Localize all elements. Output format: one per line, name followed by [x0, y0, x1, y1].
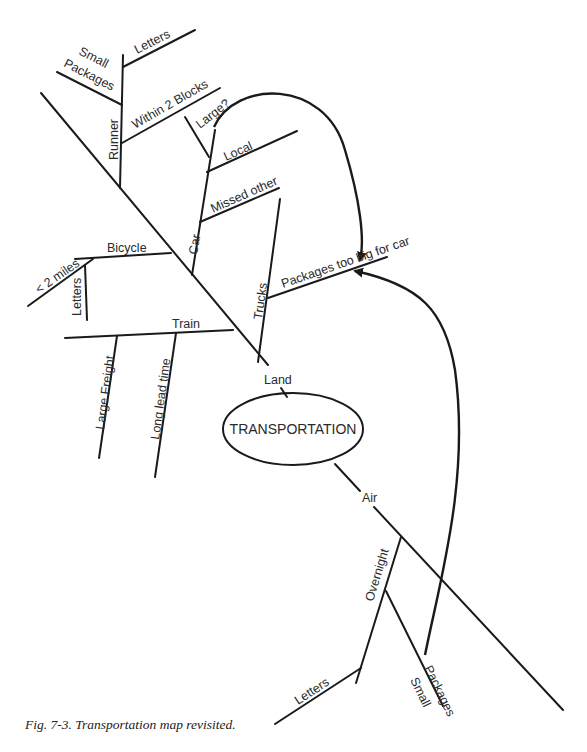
- bicycle-label: Bicycle: [107, 241, 147, 255]
- air-label: Air: [362, 491, 377, 505]
- land-trunk-line: [41, 93, 268, 365]
- large-to-trucks-arrow: [214, 94, 362, 260]
- bicycle-letters-line: [85, 265, 87, 320]
- transportation-label: TRANSPORTATION: [230, 421, 357, 437]
- transportation-mind-map: TRANSPORTATION Land Air Runner Letters S…: [0, 0, 587, 752]
- train-long-lead-time-label: Long lead time: [148, 357, 173, 440]
- car-label: Car: [186, 233, 203, 255]
- train-label: Train: [172, 317, 200, 331]
- bicycle-letters-label: Letters: [70, 278, 84, 316]
- car-missed-other-label: Missed other: [209, 174, 280, 216]
- car-local-label: Local: [222, 139, 255, 164]
- figure-caption: Fig. 7-3. Transportation map revisited.: [25, 717, 236, 733]
- trucks-line: [258, 199, 280, 362]
- car-large-label: Large?: [193, 96, 232, 131]
- train-line: [65, 330, 233, 338]
- trucks-label: Trucks: [251, 282, 270, 321]
- overnight-letters-line: [275, 668, 361, 724]
- land-label: Land: [264, 373, 292, 387]
- air-trunk-line: [374, 507, 563, 710]
- train-large-freight-label: Large Freight: [93, 354, 117, 430]
- runner-label: Runner: [107, 119, 121, 160]
- air-connector-line: [335, 464, 360, 491]
